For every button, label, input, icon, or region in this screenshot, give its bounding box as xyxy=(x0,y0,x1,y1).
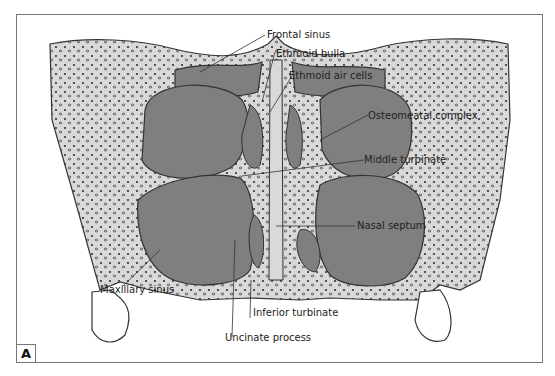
label-frontal-sinus: Frontal sinus xyxy=(267,29,330,41)
label-ethmoid-bulla: Ethmoid bulla xyxy=(276,48,345,60)
label-nasal-septum: Nasal septum xyxy=(357,220,426,232)
label-maxillary-sinus: Maxillary sinus xyxy=(100,284,174,296)
nasal-septum xyxy=(269,60,283,280)
label-inferior-turbinate: Inferior turbinate xyxy=(253,307,338,319)
panel-label: A xyxy=(16,344,36,363)
tooth-right xyxy=(415,290,451,341)
label-uncinate-process: Uncinate process xyxy=(225,332,311,344)
orbit-left xyxy=(142,85,248,178)
label-osteomeatal-complex: Osteomeatal complex xyxy=(368,110,478,122)
tooth-left xyxy=(92,290,129,342)
label-ethmoid-air-cells: Ethmoid air cells xyxy=(289,70,372,82)
label-middle-turbinate: Middle turbinate xyxy=(364,154,446,166)
